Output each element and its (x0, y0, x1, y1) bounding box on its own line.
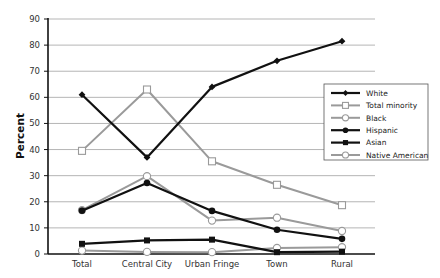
legend-label: Black (366, 114, 387, 123)
square-open-marker-icon (144, 86, 151, 93)
circle-marker-icon (343, 127, 349, 133)
circle-marker-icon (339, 236, 346, 243)
legend-label: Native American (366, 151, 429, 160)
x-tick-label: Total (71, 259, 92, 269)
legend: WhiteTotal minorityBlackHispanicAsianNat… (324, 84, 429, 160)
legend-label: Total minority (365, 101, 418, 110)
y-tick-label: 20 (29, 197, 40, 207)
square-marker-icon (274, 249, 280, 255)
y-tick-label: 50 (29, 118, 40, 128)
circle-open-marker-icon (273, 214, 280, 221)
legend-label: Hispanic (366, 126, 398, 135)
y-tick-label: 10 (29, 223, 40, 233)
x-axis-labels: TotalCentral CityUrban FringeTownRural (71, 259, 353, 269)
x-tick-label: Urban Fringe (185, 259, 240, 269)
x-tick-label: Town (265, 259, 287, 269)
y-tick-label: 30 (29, 171, 40, 181)
series-line (82, 41, 342, 157)
square-open-marker-icon (79, 147, 86, 154)
circle-marker-icon (79, 207, 86, 214)
y-tick-label: 80 (29, 40, 40, 50)
square-open-marker-icon (339, 202, 346, 209)
series-white (79, 38, 346, 161)
y-tick-label: 90 (29, 14, 40, 24)
square-marker-icon (79, 241, 85, 247)
line-chart: 0102030405060708090 TotalCentral CityUrb… (0, 0, 440, 278)
x-tick-label: Rural (331, 259, 353, 269)
series-lines (78, 38, 345, 256)
square-marker-icon (144, 237, 150, 243)
y-tick-label: 40 (29, 145, 40, 155)
square-marker-icon (209, 237, 215, 243)
circle-open-marker-icon (143, 173, 150, 180)
circle-open-marker-icon (208, 217, 215, 224)
y-tick-label: 70 (29, 66, 40, 76)
legend-label: Asian (366, 138, 387, 147)
square-marker-icon (339, 249, 345, 255)
diamond-marker-icon (274, 57, 281, 64)
circle-marker-icon (144, 180, 151, 187)
circle-open-marker-icon (342, 152, 348, 158)
circle-marker-icon (274, 226, 281, 233)
y-tick-label: 0 (35, 249, 40, 259)
series-black (78, 173, 345, 235)
square-open-marker-icon (343, 102, 349, 108)
y-axis-title: Percent (14, 113, 26, 159)
circle-open-marker-icon (143, 248, 150, 255)
circle-open-marker-icon (78, 247, 85, 254)
circle-marker-icon (209, 208, 216, 215)
legend-label: White (366, 89, 388, 98)
square-marker-icon (343, 140, 348, 145)
legend-item: Native American (331, 151, 429, 160)
square-open-marker-icon (274, 181, 281, 188)
diamond-marker-icon (339, 38, 346, 45)
y-tick-label: 60 (29, 92, 40, 102)
square-open-marker-icon (209, 158, 216, 165)
x-tick-label: Central City (122, 259, 172, 269)
series-line (82, 90, 342, 206)
circle-open-marker-icon (338, 227, 345, 234)
circle-open-marker-icon (208, 249, 215, 256)
series-hispanic (79, 180, 346, 242)
legend-item: Total minority (331, 101, 418, 110)
y-axis-ticks: 0102030405060708090 (29, 14, 48, 259)
circle-open-marker-icon (342, 115, 348, 121)
